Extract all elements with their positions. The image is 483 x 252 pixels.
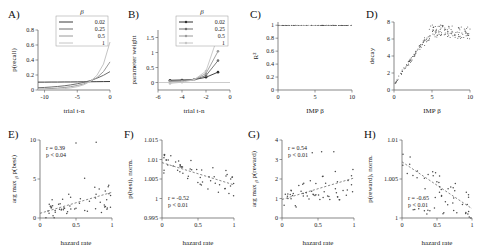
panel-g: G)00.5101234hazard ratearg max β p(rewar…	[248, 128, 360, 248]
svg-text:4: 4	[275, 136, 278, 143]
svg-text:r = 0.54: r = 0.54	[288, 145, 307, 151]
plot-b: -6-4-2000.511.5trial t-nparameter weight…	[128, 8, 236, 116]
panel-label-g: G)	[248, 128, 260, 140]
svg-text:2: 2	[387, 69, 390, 76]
svg-text:0: 0	[228, 93, 231, 100]
svg-text:1.005: 1.005	[384, 175, 398, 182]
svg-text:4: 4	[387, 52, 390, 59]
svg-text:0.25: 0.25	[215, 26, 225, 32]
svg-text:1: 1	[232, 221, 235, 228]
panel-e: E)00.510510hazard ratearg max β p(best)r…	[8, 128, 118, 248]
svg-text:-4: -4	[179, 93, 184, 100]
svg-text:-5: -5	[75, 93, 80, 100]
panel-label-b: B)	[128, 8, 139, 20]
svg-text:0.6: 0.6	[26, 41, 34, 48]
svg-text:1: 1	[110, 221, 113, 228]
svg-text:0.4: 0.4	[26, 56, 34, 63]
svg-text:p(best), norm.: p(best), norm.	[126, 159, 134, 199]
svg-text:1.005: 1.005	[144, 175, 158, 182]
panel-a: A)-10-5000.20.40.60.8trial t-np(recall)β…	[8, 8, 116, 116]
svg-text:β: β	[79, 8, 84, 16]
plot-a: -10-5000.20.40.60.8trial t-np(recall)β0.…	[8, 8, 116, 116]
plot-d: 051002468IMP βdecay	[366, 8, 476, 116]
svg-text:1: 1	[155, 195, 158, 202]
svg-text:0.5: 0.5	[314, 221, 322, 228]
panel-label-f: F)	[124, 128, 134, 140]
svg-text:0: 0	[108, 93, 111, 100]
svg-text:0: 0	[33, 214, 36, 221]
svg-text:1: 1	[271, 21, 274, 28]
svg-text:10: 10	[30, 136, 36, 143]
svg-text:3: 3	[275, 156, 278, 163]
svg-text:hazard rate: hazard rate	[422, 239, 453, 247]
svg-text:hazard rate: hazard rate	[183, 239, 214, 247]
svg-text:0.6: 0.6	[266, 47, 274, 54]
svg-text:0: 0	[392, 93, 395, 100]
svg-text:IMP β: IMP β	[306, 107, 324, 115]
svg-text:0.5: 0.5	[146, 64, 154, 71]
svg-text:-10: -10	[40, 93, 48, 100]
svg-text:0.8: 0.8	[266, 34, 274, 41]
svg-text:0.2: 0.2	[26, 71, 34, 78]
svg-text:8: 8	[387, 18, 390, 25]
svg-text:0: 0	[275, 214, 278, 221]
svg-text:1.5: 1.5	[146, 34, 154, 41]
panel-label-h: H)	[364, 128, 376, 140]
svg-text:p < 0.01: p < 0.01	[288, 152, 308, 158]
plot-h: 00.5111.0051.01hazard ratep(reward), nor…	[364, 128, 478, 248]
svg-text:2: 2	[275, 175, 278, 182]
svg-text:parameter weight: parameter weight	[130, 36, 138, 85]
svg-text:5: 5	[430, 93, 433, 100]
svg-text:1.01: 1.01	[387, 136, 398, 143]
svg-text:0: 0	[276, 93, 279, 100]
svg-text:10: 10	[349, 93, 355, 100]
panel-label-e: E)	[8, 128, 18, 140]
plot-e: 00.510510hazard ratearg max β p(best)r =…	[8, 128, 118, 248]
svg-text:1.015: 1.015	[144, 136, 158, 143]
svg-text:r = 0.39: r = 0.39	[46, 145, 65, 151]
svg-text:0.5: 0.5	[72, 221, 80, 228]
panel-f: F)00.510.99511.0051.011.015hazard ratep(…	[124, 128, 240, 248]
svg-text:p < 0.04: p < 0.04	[46, 152, 66, 158]
svg-text:0.25: 0.25	[95, 26, 105, 32]
svg-text:0.8: 0.8	[26, 26, 34, 33]
svg-text:hazard rate: hazard rate	[61, 239, 92, 247]
svg-text:0: 0	[160, 221, 163, 228]
svg-text:-2: -2	[203, 93, 208, 100]
svg-text:0.5: 0.5	[194, 221, 202, 228]
svg-text:0: 0	[280, 221, 283, 228]
svg-text:0: 0	[31, 86, 34, 93]
svg-text:10: 10	[467, 93, 473, 100]
svg-text:1: 1	[151, 49, 154, 56]
svg-text:1.01: 1.01	[147, 156, 158, 163]
svg-text:0.5: 0.5	[218, 33, 225, 39]
plot-g: 00.5101234hazard ratearg max β p(reward)…	[248, 128, 360, 248]
svg-text:trial t-n: trial t-n	[64, 107, 85, 115]
svg-text:1: 1	[222, 40, 225, 46]
svg-text:1: 1	[352, 221, 355, 228]
svg-text:1: 1	[102, 40, 105, 46]
svg-text:0: 0	[271, 86, 274, 93]
svg-text:5: 5	[313, 93, 316, 100]
svg-text:1: 1	[275, 195, 278, 202]
svg-text:0.5: 0.5	[98, 33, 105, 39]
panel-h: H)00.5111.0051.01hazard ratep(reward), n…	[364, 128, 478, 248]
svg-text:-6: -6	[155, 93, 160, 100]
svg-text:arg max β p(reward): arg max β p(reward)	[250, 150, 259, 207]
svg-text:hazard rate: hazard rate	[303, 239, 334, 247]
plot-c: 051000.20.40.60.81IMP βR²	[250, 8, 358, 116]
panel-d: D)051002468IMP βdecay	[366, 8, 476, 116]
svg-text:1: 1	[395, 214, 398, 221]
svg-text:IMP β: IMP β	[423, 107, 441, 115]
svg-text:5: 5	[33, 175, 36, 182]
svg-text:trial t-n: trial t-n	[184, 107, 205, 115]
svg-text:1: 1	[470, 221, 473, 228]
figure-canvas: A)-10-5000.20.40.60.8trial t-np(recall)β…	[0, 0, 483, 252]
svg-text:0.5: 0.5	[433, 221, 441, 228]
svg-text:0: 0	[38, 221, 41, 228]
svg-text:p(recall): p(recall)	[10, 47, 18, 71]
svg-text:β: β	[199, 8, 204, 16]
svg-text:0.02: 0.02	[215, 19, 225, 25]
svg-text:0: 0	[400, 221, 403, 228]
svg-text:6: 6	[387, 35, 390, 42]
